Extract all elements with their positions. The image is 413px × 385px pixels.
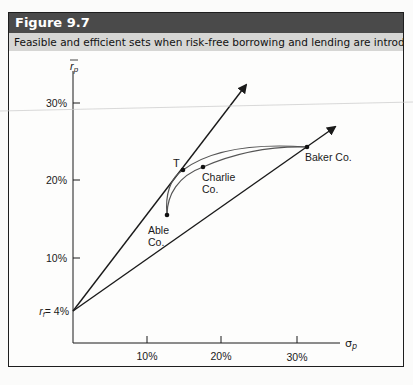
point-able: [165, 213, 170, 218]
x-tick-10: 10%: [136, 350, 157, 362]
line-rf-baker: [73, 127, 335, 311]
y-tick-30: 30%: [46, 97, 67, 109]
x-tick-30: 30%: [286, 351, 307, 363]
label-charlie-2: Co.: [202, 183, 218, 195]
label-baker: Baker Co.: [305, 151, 352, 163]
label-T: T: [173, 157, 180, 169]
y-axis-label: rp: [70, 60, 79, 74]
feasible-curve-lower: [167, 147, 307, 215]
y-tick-10: 10%: [46, 252, 67, 264]
feasible-curve-upper: [167, 146, 307, 215]
label-able-2: Co.: [148, 236, 164, 248]
y-tick-20: 20%: [46, 174, 67, 186]
label-able-1: Able: [148, 224, 169, 236]
x-tick-20: 20%: [210, 350, 231, 362]
point-charlie: [201, 165, 206, 170]
chart-plot: rp 30% 20% 10% rf= 4% 10% 20% 30% σp T A…: [0, 0, 413, 385]
point-baker: [305, 145, 310, 150]
rf-label: rf= 4%: [39, 305, 69, 318]
efficient-line-rf-T: [73, 85, 246, 311]
x-axis-label: σp: [345, 337, 357, 351]
label-charlie-1: Charlie: [202, 171, 235, 183]
point-T: [181, 168, 186, 173]
